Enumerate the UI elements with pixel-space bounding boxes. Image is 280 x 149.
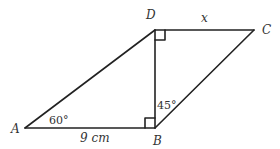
vertex-label-d: D <box>145 8 156 22</box>
side-label-ab: 9 cm <box>80 131 110 145</box>
side-bc <box>155 30 254 128</box>
side-da <box>25 30 155 128</box>
right-angle-marker-d <box>155 30 165 40</box>
angle-label-a: 60° <box>49 114 69 127</box>
vertex-label-b: B <box>152 134 162 148</box>
angle-label-b: 45° <box>157 99 177 112</box>
vertex-label-c: C <box>262 23 271 37</box>
right-angle-marker-b <box>145 118 155 128</box>
parallelogram-diagram: A B C D x 9 cm 60° 45° <box>0 0 280 149</box>
vertex-label-a: A <box>10 122 20 136</box>
side-label-dc: x <box>201 11 208 25</box>
